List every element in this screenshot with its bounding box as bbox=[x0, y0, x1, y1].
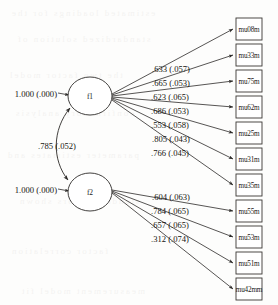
indicator-label-mu51m: mu51m bbox=[239, 260, 261, 268]
loading-label-f1-mu31m: .805 (.043) bbox=[152, 134, 190, 144]
indicator-node[interactable]: mu31m bbox=[236, 148, 262, 170]
variance-arrow-f1 bbox=[58, 93, 69, 95]
indicator-label-mu62m: mu62m bbox=[239, 104, 261, 112]
variance-label-f2: 1.000 (.000) bbox=[15, 185, 57, 195]
loading-label-f2-mu42mm: .312 (.074) bbox=[151, 234, 189, 244]
factor-label-f1: f1 bbox=[87, 92, 93, 101]
indicator-node[interactable]: mu53m bbox=[236, 226, 262, 248]
loading-labels-f1: .633 (.057) .665 (.053) .623 (.065) .686… bbox=[151, 64, 190, 158]
indicator-node[interactable]: mu51m bbox=[236, 252, 262, 274]
variance-arrow-f2 bbox=[58, 189, 69, 191]
loading-label-f2-mu55m: .604 (.063) bbox=[152, 192, 190, 202]
loading-label-f1-mu25m: .553 (.058) bbox=[151, 120, 189, 130]
indicator-label-mu75m: mu75m bbox=[239, 78, 261, 86]
loading-label-f1-mu08m: .633 (.057) bbox=[152, 64, 190, 74]
indicator-label-mu55m: mu55m bbox=[239, 208, 261, 216]
loading-label-f2-mu51m: .657 (.065) bbox=[151, 220, 189, 230]
loading-label-f1-mu35m: .766 (.045) bbox=[151, 148, 189, 158]
loading-label-f1-mu62m: .686 (.053) bbox=[151, 106, 189, 116]
covariance-label-f1-f2: .785 (.052) bbox=[38, 141, 76, 151]
indicator-label-mu08m: mu08m bbox=[239, 26, 261, 34]
indicator-label-mu25m: mu25m bbox=[239, 130, 261, 138]
indicator-node[interactable]: mu35m bbox=[236, 174, 262, 196]
sem-path-diagram: estimated loadings for the standardized … bbox=[0, 0, 278, 305]
variance-label-f1: 1.000 (.000) bbox=[15, 89, 57, 99]
loading-label-f1-mu33m: .665 (.053) bbox=[152, 78, 190, 88]
indicator-node[interactable]: mu62m bbox=[236, 96, 262, 118]
indicator-node[interactable]: mu33m bbox=[236, 44, 262, 66]
loading-label-f2-mu53m: .784 (.065) bbox=[151, 206, 189, 216]
indicator-label-mu53m: mu53m bbox=[239, 234, 261, 242]
indicator-label-mu31m: mu31m bbox=[239, 156, 261, 164]
factor-label-f2: f2 bbox=[87, 188, 93, 197]
diagram-canvas: f1 f2 mu08m mu33m mu75m mu62m mu25m bbox=[0, 0, 278, 305]
loading-label-f1-mu75m: .623 (.065) bbox=[151, 92, 189, 102]
loading-path-f1-mu33m bbox=[112, 55, 233, 95]
indicator-node[interactable]: mu25m bbox=[236, 122, 262, 144]
indicator-node[interactable]: mu75m bbox=[236, 70, 262, 92]
indicator-node[interactable]: mu42mm bbox=[236, 278, 263, 300]
factor-node-f1[interactable]: f1 bbox=[68, 77, 112, 115]
indicator-node[interactable]: mu08m bbox=[236, 18, 262, 40]
indicator-label-mu33m: mu33m bbox=[239, 52, 261, 60]
factor-node-f2[interactable]: f2 bbox=[68, 173, 112, 211]
indicator-label-mu35m: mu35m bbox=[239, 182, 261, 190]
indicator-node[interactable]: mu55m bbox=[236, 200, 262, 222]
indicator-label-mu42mm: mu42mm bbox=[236, 286, 263, 294]
